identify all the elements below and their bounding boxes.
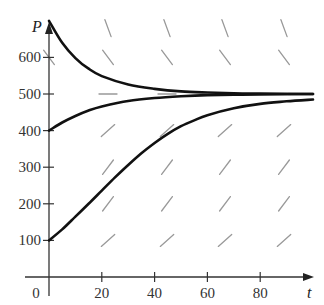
slope-segment: [220, 197, 231, 211]
slope-field-chart: P t 020406080100200300400500600: [0, 0, 324, 305]
y-tick-label: 600: [19, 49, 42, 65]
slope-segment: [164, 20, 170, 37]
slope-segment: [218, 125, 231, 137]
y-tick-label: 200: [19, 196, 42, 212]
slope-segment: [277, 125, 290, 137]
slope-segment: [218, 234, 231, 246]
x-tick-label: 20: [94, 285, 109, 301]
slope-segment: [162, 197, 173, 211]
y-tick-label: 300: [19, 159, 42, 175]
slope-segment: [105, 20, 111, 37]
y-tick-label: 100: [19, 232, 42, 248]
slope-segment: [103, 160, 114, 174]
x-tick-label: 0: [32, 285, 40, 301]
slope-segment: [162, 160, 173, 174]
solution-curves: [49, 21, 313, 241]
y-tick-label: 400: [19, 123, 42, 139]
solution-curve: [49, 100, 313, 241]
slope-segment: [279, 197, 290, 211]
slope-segment: [101, 234, 114, 246]
y-tick-label: 500: [19, 86, 42, 102]
slope-segment: [279, 50, 290, 64]
slope-segment: [101, 125, 114, 137]
x-axis-arrow-icon: [303, 273, 314, 281]
x-tick-label: 60: [200, 285, 215, 301]
x-axis-label: t: [307, 284, 312, 301]
slope-segment: [277, 234, 290, 246]
solution-curve: [49, 21, 313, 94]
slope-segment: [103, 197, 114, 211]
slope-segment: [279, 160, 290, 174]
x-tick-label: 80: [253, 285, 268, 301]
slope-segment: [222, 20, 228, 37]
slope-segment: [162, 50, 173, 64]
slope-segment: [220, 50, 231, 64]
x-tick-label: 40: [147, 285, 162, 301]
slope-segment: [281, 20, 287, 37]
slope-segment: [103, 50, 114, 64]
y-axis-label: P: [31, 18, 42, 35]
slope-segment: [160, 234, 173, 246]
slope-segment: [220, 160, 231, 174]
